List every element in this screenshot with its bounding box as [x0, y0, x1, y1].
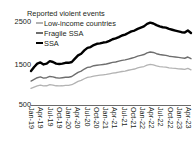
x-axis-tick-label: Oct-20 [92, 107, 99, 129]
x-axis-tick-label: Oct-19 [56, 107, 63, 129]
x-axis-tick-label: Jan-23 [176, 107, 183, 129]
chart-figure: Reported violent events 2500 1500 500 Lo… [0, 0, 194, 149]
x-axis-tick-label: Jul-19 [46, 107, 53, 127]
x-axis-tick-label: Jan-20 [65, 107, 72, 129]
x-axis-tick-label: Jan-22 [139, 107, 146, 129]
x-axis-tick-label: Jul-20 [83, 107, 90, 127]
y-axis-tick-1500: 1500 [0, 61, 31, 69]
y-axis-tick-2500: 2500 [0, 18, 31, 26]
x-axis-tick-label: Apr-22 [148, 107, 155, 129]
x-axis-tick-labels: Jan-19Apr-19Jul-19Oct-19Jan-20Apr-20Jul-… [31, 106, 191, 149]
x-axis-tick-label: Jul-21 [120, 107, 127, 127]
x-axis-tick-label: Apr-23 [185, 107, 192, 129]
line-chart-svg [31, 14, 191, 105]
series-line-low-income-countries [31, 64, 191, 88]
x-axis-tick-label: Oct-22 [166, 107, 173, 129]
series-line-fragile-ssa [31, 52, 191, 81]
x-axis-tick-label: Jan-21 [102, 107, 109, 129]
x-axis-tick-label: Apr-20 [74, 107, 81, 129]
series-line-ssa [31, 23, 191, 71]
x-axis-tick-label: Jul-22 [157, 107, 164, 127]
x-axis-tick-label: Apr-19 [37, 107, 44, 129]
plot-area [31, 14, 191, 105]
x-axis-tick-label: Apr-21 [111, 107, 118, 129]
x-axis-tick-label: Oct-21 [129, 107, 136, 129]
x-axis-tick-label: Jan-19 [28, 107, 35, 129]
